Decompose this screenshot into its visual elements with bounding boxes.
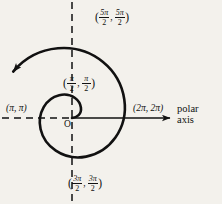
fraction-pi-over-2-second: π 2 [81, 75, 91, 93]
polar-spiral-figure [0, 0, 222, 204]
fraction-denominator: 2 [102, 19, 106, 27]
label-close-paren: ) [98, 178, 102, 190]
fraction-denominator: 2 [118, 19, 122, 27]
label-point-2pi: (2π, 2π) [133, 104, 163, 114]
origin-label: O [64, 120, 71, 130]
label-point-pi-over-2: ( π 2 , π 2 ) [63, 74, 95, 93]
fraction-numerator: 3π [88, 175, 98, 183]
label-close-paren: ) [91, 78, 95, 90]
fraction-pi-over-2-first: π 2 [67, 75, 77, 93]
fraction-denominator: 2 [75, 185, 79, 193]
polar-axis-label: polar axis [177, 104, 199, 126]
fraction-denominator: 2 [70, 85, 74, 93]
fraction-numerator: π [69, 75, 75, 83]
fraction-3pi-over-2-second: 3π 2 [87, 175, 98, 193]
label-point-pi: (π, π) [6, 104, 27, 114]
label-point-3pi-over-2: ( 3π 2 , 3π 2 ) [68, 174, 102, 193]
polar-axis-label-line2: axis [177, 115, 199, 126]
fraction-numerator: 3π [72, 175, 82, 183]
fraction-5pi-over-2-first: 5π 2 [99, 9, 110, 27]
fraction-numerator: 5π [99, 9, 109, 17]
label-point-5pi-over-2: ( 5π 2 , 5π 2 ) [95, 8, 129, 27]
archimedean-spiral-curve [13, 48, 125, 157]
fraction-numerator: π [83, 75, 89, 83]
fraction-denominator: 2 [91, 185, 95, 193]
label-close-paren: ) [125, 12, 129, 24]
fraction-5pi-over-2-second: 5π 2 [114, 9, 125, 27]
fraction-denominator: 2 [84, 85, 88, 93]
fraction-3pi-over-2-first: 3π 2 [72, 175, 83, 193]
fraction-numerator: 5π [115, 9, 125, 17]
